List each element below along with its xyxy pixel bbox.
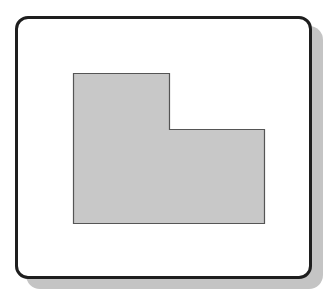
l-shaped-region (74, 74, 265, 224)
diagram-canvas (0, 0, 332, 294)
